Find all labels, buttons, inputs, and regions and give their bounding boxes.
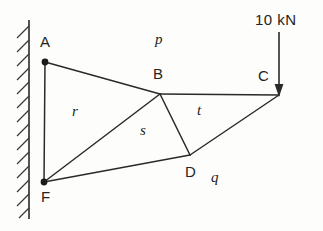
region-label-q: q <box>211 170 219 185</box>
wall-hatch-mark <box>17 152 29 164</box>
wall-hatch-mark <box>17 96 29 108</box>
wall-hatching-group <box>17 20 29 219</box>
node-label-C: C <box>258 68 269 83</box>
joint-F <box>41 179 48 186</box>
wall-hatch-mark <box>17 124 29 136</box>
member-F-D <box>44 155 190 182</box>
wall-hatch-mark <box>17 180 29 192</box>
node-label-D: D <box>185 164 196 179</box>
node-label-F: F <box>41 189 50 204</box>
wall-hatch-mark <box>17 54 29 66</box>
member-A-F <box>44 62 45 182</box>
wall-hatch-mark <box>17 166 29 178</box>
region-label-p: p <box>155 32 163 47</box>
member-D-C <box>190 95 279 155</box>
wall-hatch-mark <box>17 194 29 206</box>
region-label-s: s <box>140 123 146 138</box>
region-label-r: r <box>72 104 78 119</box>
node-label-B: B <box>153 66 163 81</box>
node-label-A: A <box>40 34 50 49</box>
member-F-B <box>44 94 160 182</box>
wall-hatch-mark <box>17 68 29 80</box>
wall-hatch-mark <box>17 40 29 52</box>
wall-hatch-mark <box>19 208 29 218</box>
load-magnitude-label: 10 kN <box>255 12 297 27</box>
wall-hatch-mark <box>17 26 29 38</box>
region-label-t: t <box>197 103 201 118</box>
member-B-D <box>160 94 190 155</box>
load-arrow-group <box>275 32 284 97</box>
joint-A <box>42 59 49 66</box>
member-A-B <box>45 62 160 94</box>
truss-diagram-canvas: A B C D F p r s t q 10 kN <box>0 0 323 231</box>
wall-hatch-mark <box>17 82 29 94</box>
wall-hatch-mark <box>17 110 29 122</box>
wall-hatch-mark <box>17 138 29 150</box>
member-B-C <box>160 94 279 95</box>
